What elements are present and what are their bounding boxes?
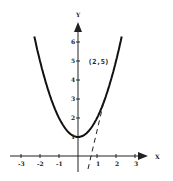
- y-tick-label: 2: [71, 114, 75, 121]
- y-axis-label: Y: [75, 11, 81, 18]
- chart: -3 -2 -1 1 2 3 1 2 3 4 5 6 X Y (2,5): [0, 0, 173, 181]
- x-tick-label: 2: [115, 160, 119, 167]
- plot-area: -3 -2 -1 1 2 3 1 2 3 4 5 6 X Y (2,5): [0, 0, 173, 181]
- point-label: (2,5): [88, 58, 109, 66]
- x-tick-label: -1: [56, 160, 63, 167]
- x-axis-arrow-icon: [138, 152, 148, 160]
- tangent-line: [88, 101, 104, 169]
- y-tick-label: 5: [71, 57, 75, 64]
- x-tick-label: -2: [37, 160, 44, 167]
- y-tick-label: 4: [71, 76, 75, 83]
- x-tick-label: -3: [18, 160, 25, 167]
- x-tick-label: 1: [96, 160, 100, 167]
- x-axis-label: X: [155, 153, 160, 160]
- y-tick-label: 6: [71, 38, 75, 45]
- y-axis-arrow-icon: [74, 22, 82, 32]
- y-tick-label: 3: [71, 95, 75, 102]
- y-tick-label: 1: [71, 133, 75, 140]
- x-tick-label: 3: [134, 160, 138, 167]
